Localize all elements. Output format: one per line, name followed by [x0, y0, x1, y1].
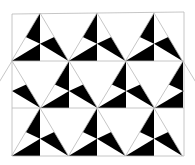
- black-wedge-upper: [83, 13, 97, 44]
- black-wedge-lower: [0, 91, 12, 108]
- black-wedge-upper: [140, 13, 154, 44]
- black-wedge-upper: [55, 61, 69, 91]
- black-wedge-upper: [26, 108, 40, 139]
- triangle-edge-line: [126, 61, 155, 108]
- triangle-edge-line: [40, 108, 69, 156]
- black-wedge-lower: [69, 44, 98, 61]
- tessellation-pattern: [0, 0, 195, 165]
- black-wedge-lower: [155, 91, 184, 108]
- black-wedge-lower: [12, 44, 41, 61]
- black-wedge-lower: [41, 91, 70, 108]
- black-wedge-upper: [83, 108, 97, 139]
- black-wedge-right: [40, 132, 69, 156]
- pinwheel-motifs: [0, 13, 195, 156]
- black-wedge-upper: [140, 108, 154, 139]
- frame-top-line: [12, 12, 184, 14]
- black-wedge-upper: [169, 61, 183, 91]
- triangle-edge-line: [69, 61, 98, 108]
- triangle-edge-line: [97, 108, 126, 156]
- black-wedge-lower: [98, 91, 127, 108]
- triangle-edge-line: [154, 108, 183, 156]
- triangle-edge-line: [40, 13, 69, 61]
- black-wedge-lower: [12, 139, 41, 156]
- black-wedge-right: [40, 37, 69, 61]
- black-wedge-lower: [69, 139, 98, 156]
- black-wedge-upper: [26, 13, 40, 44]
- black-wedge-right: [97, 37, 126, 61]
- triangle-edge-line: [12, 61, 41, 108]
- black-wedge-upper: [112, 61, 126, 91]
- black-wedge-right: [154, 132, 183, 156]
- triangle-edge-line: [0, 61, 12, 108]
- triangle-edge-line: [183, 61, 195, 108]
- black-wedge-right: [154, 37, 183, 61]
- triangle-edge-line: [97, 13, 126, 61]
- black-wedge-right: [97, 132, 126, 156]
- black-wedge-right: [183, 85, 195, 109]
- black-wedge-upper: [0, 61, 12, 91]
- triangle-edge-line: [154, 13, 183, 61]
- black-wedge-right: [69, 85, 98, 109]
- black-wedge-lower: [126, 44, 155, 61]
- black-wedge-right: [12, 85, 41, 109]
- black-wedge-lower: [126, 139, 155, 156]
- black-wedge-right: [126, 85, 155, 109]
